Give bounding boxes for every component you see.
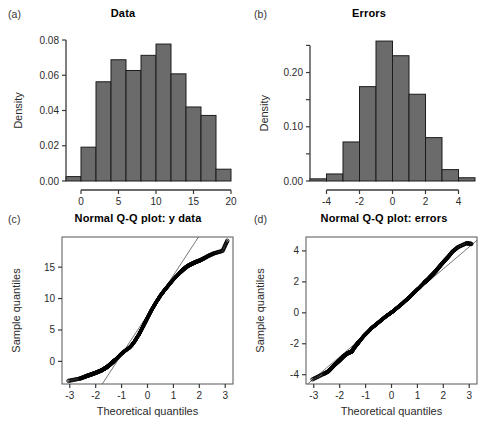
x-axis-title: Theoretical quantiles	[341, 405, 443, 417]
histogram-bar	[156, 44, 171, 181]
histogram-bar	[201, 115, 216, 181]
histogram-bar	[96, 82, 111, 181]
y-axis-title: Density	[12, 92, 24, 129]
y-tick-label: 0.08	[40, 35, 60, 46]
x-tick-label: -1	[361, 390, 370, 401]
panel-d-qq-errors: (d) Normal Q-Q plot: errors -4-2024-3-2-…	[246, 205, 492, 428]
histogram-bar	[426, 138, 443, 181]
histogram-bar	[171, 74, 186, 181]
x-tick-label: 3	[222, 390, 228, 401]
y-tick-label: -2	[290, 338, 299, 349]
panel-d-plot: -4-2024-3-2-10123Theoretical quantilesSa…	[246, 205, 492, 446]
y-tick-label: 0.00	[40, 176, 60, 187]
y-tick-label: 0.04	[40, 105, 60, 116]
x-tick-label: -3	[65, 390, 74, 401]
histogram-bars	[310, 41, 475, 181]
y-tick-label: 4	[293, 245, 299, 256]
qq-points	[67, 239, 229, 383]
histogram-bar	[409, 94, 426, 181]
histogram-bar	[393, 56, 410, 181]
x-tick-label: 0	[389, 390, 395, 401]
y-tick-label: 0.20	[284, 67, 304, 78]
x-tick-label: 3	[466, 390, 472, 401]
y-axis-title: Sample quantiles	[254, 268, 266, 353]
panel-a-plot: 0.000.020.040.060.08Density05101520	[0, 0, 246, 223]
histogram-bar	[141, 55, 156, 181]
histogram-bars	[66, 44, 231, 181]
histogram-bar	[442, 170, 459, 181]
y-tick-label: 15	[44, 262, 56, 273]
y-tick-label: 0.00	[284, 176, 304, 187]
x-tick-label: 1	[171, 390, 177, 401]
histogram-bar	[343, 142, 360, 181]
panel-c-qq-y-data: (c) Normal Q-Q plot: y data 051015-3-2-1…	[0, 205, 246, 428]
y-tick-label: 0	[293, 307, 299, 318]
x-tick-label: 1	[415, 390, 421, 401]
x-tick-label: -3	[309, 390, 318, 401]
y-tick-label: 0.02	[40, 140, 60, 151]
y-tick-label: 10	[44, 293, 56, 304]
x-tick-label: -2	[335, 390, 344, 401]
panel-b-plot: 0.000.100.20Density-4-2024	[246, 0, 492, 223]
y-tick-label: 2	[293, 276, 299, 287]
y-tick-label: 0.06	[40, 70, 60, 81]
histogram-bar	[126, 70, 141, 181]
x-tick-label: 2	[197, 390, 203, 401]
x-tick-label: -2	[91, 390, 100, 401]
y-axis-title: Density	[258, 94, 270, 131]
histogram-bar	[216, 169, 231, 181]
y-tick-label: 0	[49, 356, 55, 367]
histogram-bar	[360, 87, 377, 181]
histogram-bar	[111, 60, 126, 181]
x-tick-label: 0	[145, 390, 151, 401]
histogram-bar	[376, 41, 393, 181]
y-tick-label: 5	[49, 324, 55, 335]
x-tick-label: 2	[441, 390, 447, 401]
histogram-bar	[186, 107, 201, 181]
histogram-bar	[459, 178, 476, 181]
panel-b-errors-histogram: (b) Errors 0.000.100.20Density-4-2024	[246, 0, 492, 223]
x-axis-title: Theoretical quantiles	[97, 405, 199, 417]
histogram-bar	[310, 179, 327, 181]
y-tick-label: 0.10	[284, 121, 304, 132]
panel-c-plot: 051015-3-2-10123Theoretical quantilesSam…	[0, 205, 246, 446]
histogram-bar	[327, 174, 344, 181]
y-tick-label: -4	[290, 369, 299, 380]
figure-panel-grid: (a) Data 0.000.020.040.060.08Density0510…	[0, 0, 492, 446]
x-tick-label: -1	[117, 390, 126, 401]
y-axis-title: Sample quantiles	[10, 268, 22, 353]
panel-a-data-histogram: (a) Data 0.000.020.040.060.08Density0510…	[0, 0, 246, 223]
plot-frame	[62, 237, 233, 384]
histogram-bar	[81, 147, 96, 181]
histogram-bar	[66, 177, 81, 181]
